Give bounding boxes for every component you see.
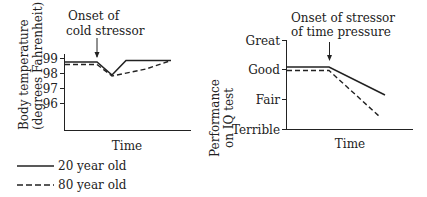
right-annotation-line2: of time pressure <box>291 25 391 39</box>
left-series-20yo <box>65 61 171 76</box>
right-y-axis-label: Performance on IQ test <box>208 79 236 157</box>
right-chart: Onset of stressor of time pressure Perfo… <box>208 11 413 157</box>
tick-good: Good <box>248 63 280 77</box>
figure: Onset of cold stressor Body temperature … <box>0 0 427 197</box>
tick-99: 99 <box>43 52 58 66</box>
left-annotation-line2: cold stressor <box>66 24 145 38</box>
tick-98: 98 <box>43 67 58 81</box>
right-series-20yo <box>287 67 385 95</box>
tick-terrible: Terrible <box>232 123 280 137</box>
right-series-80yo <box>287 71 380 118</box>
tick-fair: Fair <box>256 93 281 107</box>
left-chart: Onset of cold stressor Body temperature … <box>17 2 191 153</box>
tick-97: 97 <box>43 82 58 96</box>
left-x-axis-label: Time <box>112 139 142 153</box>
legend-label-80yo: 80 year old <box>58 178 127 192</box>
left-annotation-line1: Onset of <box>68 9 121 23</box>
left-arrowhead-icon <box>95 52 100 58</box>
legend: 20 year old 80 year old <box>17 159 127 192</box>
svg-text:Body temperature: Body temperature <box>17 19 31 130</box>
svg-text:Performance: Performance <box>208 79 222 157</box>
left-ticks: 99 98 97 96 <box>43 52 64 111</box>
svg-text:on IQ test: on IQ test <box>222 88 236 148</box>
tick-great: Great <box>246 34 281 48</box>
right-ticks: Great Good Fair Terrible <box>232 34 286 137</box>
right-annotation-line1: Onset of stressor <box>291 11 395 25</box>
left-y-axis-label: Body temperature (degrees Fahrenheit) <box>17 2 45 130</box>
right-arrowhead-icon <box>327 55 332 61</box>
legend-label-20yo: 20 year old <box>58 159 127 173</box>
tick-96: 96 <box>43 97 58 111</box>
right-x-axis-label: Time <box>335 137 365 151</box>
